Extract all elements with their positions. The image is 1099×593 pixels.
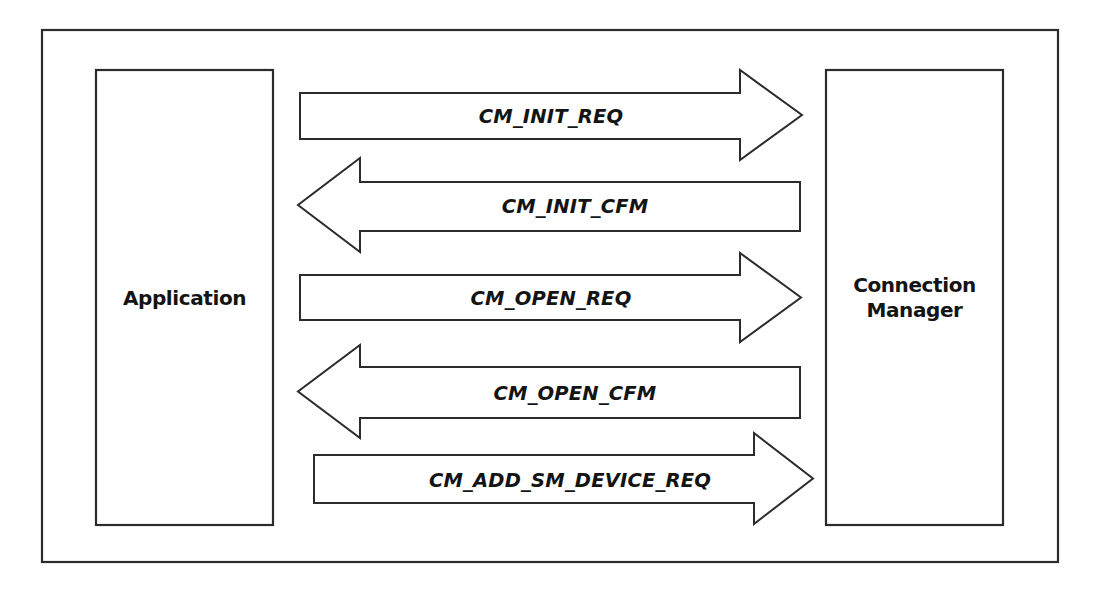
participant-application[interactable]: Application	[96, 70, 273, 525]
message-label: CM_INIT_REQ	[479, 105, 623, 128]
participant-label-connection-manager: ConnectionManager	[853, 273, 976, 322]
sequence-diagram-canvas: Application ConnectionManager CM_INIT_RE…	[0, 0, 1099, 593]
participant-connection-manager[interactable]: ConnectionManager	[826, 70, 1003, 525]
message-label: CM_OPEN_CFM	[494, 382, 657, 405]
participant-label-application: Application	[123, 286, 246, 310]
message-label: CM_ADD_SM_DEVICE_REQ	[429, 469, 711, 492]
message-label: CM_OPEN_REQ	[471, 287, 632, 310]
diagram-root: Application ConnectionManager CM_INIT_RE…	[0, 0, 1099, 593]
message-arrows-group: CM_INIT_REQCM_INIT_CFMCM_OPEN_REQCM_OPEN…	[298, 70, 813, 524]
message-label: CM_INIT_CFM	[502, 195, 649, 218]
